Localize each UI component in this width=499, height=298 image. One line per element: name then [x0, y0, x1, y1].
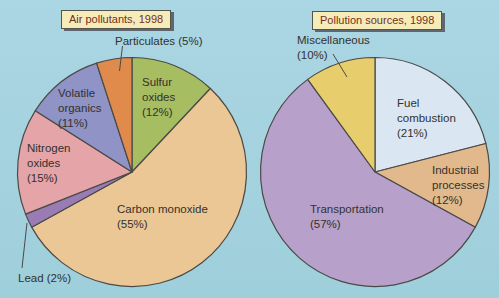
pie-chart-layer [0, 0, 499, 298]
figure-canvas: Air pollutants, 1998 Pollution sources, … [0, 0, 499, 298]
label-fuel-combustion: Fuel combustion (21%) [397, 96, 456, 141]
label-transportation: Transportation (57%) [310, 202, 384, 232]
label-miscellaneous: Miscellaneous (10%) [297, 33, 370, 63]
label-sulfur-oxides: Sulfur oxides (12%) [142, 75, 175, 120]
label-lead: Lead (2%) [18, 271, 71, 286]
label-nitrogen-oxides: Nitrogen oxides (15%) [27, 141, 70, 186]
air-pollutants-title: Air pollutants, 1998 [61, 10, 171, 29]
label-carbon-monoxide: Carbon monoxide (55%) [117, 202, 208, 232]
label-volatile-organics: Volatile organics (11%) [58, 86, 101, 131]
label-particulates: Particulates (5%) [115, 34, 203, 49]
pollution-sources-title: Pollution sources, 1998 [312, 11, 442, 30]
leader-line-lead [22, 223, 27, 268]
label-industrial-processes: Industrial processes (12%) [432, 163, 484, 208]
